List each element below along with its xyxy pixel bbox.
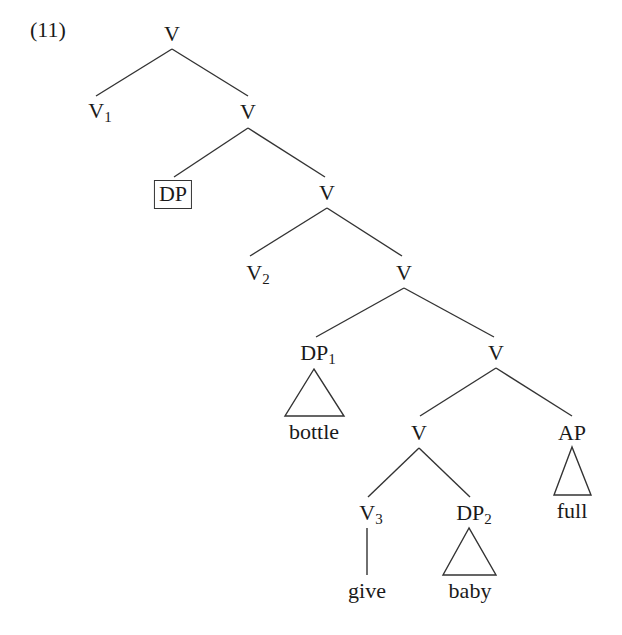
node-v2: V2 bbox=[246, 262, 269, 284]
leaf-full: full bbox=[557, 500, 588, 522]
node-dp-boxed: DP bbox=[154, 180, 192, 209]
node-v-a: V bbox=[240, 101, 256, 123]
edge-vb-v2 bbox=[250, 208, 327, 256]
edge-root-va bbox=[172, 49, 248, 96]
node-dp1: DP1 bbox=[300, 342, 336, 364]
edge-vd-ve bbox=[420, 368, 496, 416]
edge-ve-v3 bbox=[368, 448, 419, 497]
triangle-dp2 bbox=[443, 528, 496, 575]
tree-edges bbox=[0, 0, 622, 635]
node-v1: V1 bbox=[88, 100, 111, 122]
edge-root-v1 bbox=[96, 49, 172, 96]
leaf-bottle: bottle bbox=[289, 421, 339, 443]
edge-vc-dp1 bbox=[316, 288, 404, 337]
node-ap: AP bbox=[558, 422, 586, 444]
leaf-give: give bbox=[348, 580, 386, 602]
node-v-d: V bbox=[488, 342, 504, 364]
triangle-ap bbox=[554, 447, 591, 495]
triangle-dp1 bbox=[285, 369, 344, 416]
node-v3: V3 bbox=[359, 502, 382, 524]
edge-va-vb bbox=[248, 128, 325, 177]
edge-vc-vd bbox=[404, 288, 494, 337]
node-root-v: V bbox=[164, 23, 180, 45]
edge-vb-vc bbox=[327, 208, 402, 256]
edge-vd-ap bbox=[496, 368, 572, 416]
leaf-baby: baby bbox=[449, 580, 492, 602]
edge-va-dp bbox=[174, 128, 248, 177]
node-v-e: V bbox=[411, 422, 427, 444]
node-v-b: V bbox=[319, 182, 335, 204]
node-v-c: V bbox=[396, 262, 412, 284]
edge-ve-dp2 bbox=[419, 448, 470, 497]
node-dp2: DP2 bbox=[456, 502, 492, 524]
